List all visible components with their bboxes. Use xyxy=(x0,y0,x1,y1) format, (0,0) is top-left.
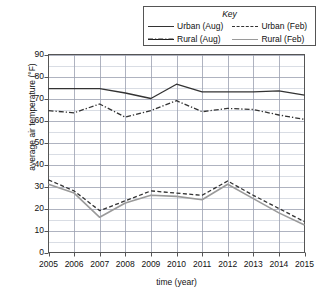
line-chart-figure: Key Urban (Aug) Urban (Feb) Rural (Aug) xyxy=(0,0,324,297)
minor-gridlines xyxy=(49,67,305,243)
series-line-rural-feb xyxy=(49,184,305,225)
series-line-rural-aug xyxy=(49,101,305,120)
plot-area xyxy=(0,0,324,297)
series-line-urban-aug xyxy=(49,84,305,98)
series-line-urban-feb xyxy=(49,180,305,222)
